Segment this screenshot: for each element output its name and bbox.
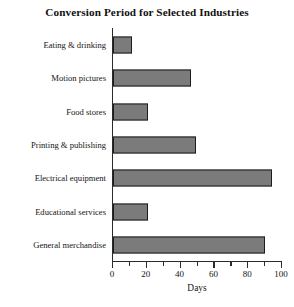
bar-rows: Eating & drinkingMotion picturesFood sto… xyxy=(0,28,294,262)
x-axis-tick-label: 20 xyxy=(141,269,150,279)
x-axis-tick xyxy=(213,262,214,268)
bar xyxy=(113,203,148,220)
bar-chart: Conversion Period for Selected Industrie… xyxy=(0,0,294,307)
x-axis-tick-label: 80 xyxy=(243,269,252,279)
bar-row: Educational services xyxy=(0,195,294,228)
x-axis-tick xyxy=(281,262,282,268)
category-label: Educational services xyxy=(35,207,106,217)
x-axis-tick xyxy=(146,262,147,268)
x-axis-minor-tick xyxy=(264,262,265,266)
bar-row: Food stores xyxy=(0,95,294,128)
bar-row: Eating & drinking xyxy=(0,28,294,61)
x-axis-tick-label: 0 xyxy=(110,269,115,279)
plot-area: Eating & drinkingMotion picturesFood sto… xyxy=(0,0,294,307)
bar-row: Printing & publishing xyxy=(0,128,294,161)
category-label: Electrical equipment xyxy=(35,173,106,183)
bar-row: General merchandise xyxy=(0,229,294,262)
x-axis-tick-label: 100 xyxy=(274,269,288,279)
category-label: Motion pictures xyxy=(51,73,106,83)
category-label: Printing & publishing xyxy=(31,140,106,150)
category-label: Food stores xyxy=(66,107,106,117)
x-axis-minor-tick xyxy=(129,262,130,266)
bar-row: Motion pictures xyxy=(0,61,294,94)
bar xyxy=(113,136,196,153)
x-axis-minor-tick xyxy=(197,262,198,266)
bar-row: Electrical equipment xyxy=(0,162,294,195)
category-label: Eating & drinking xyxy=(43,40,106,50)
bar xyxy=(113,70,191,87)
x-axis-tick-label: 60 xyxy=(209,269,218,279)
x-axis-title: Days xyxy=(112,283,282,293)
x-axis-tick xyxy=(112,262,113,268)
bar xyxy=(113,103,148,120)
x-axis-minor-tick xyxy=(230,262,231,266)
x-axis-tick xyxy=(247,262,248,268)
x-axis-tick xyxy=(180,262,181,268)
bar xyxy=(113,170,272,187)
x-axis-tick-label: 40 xyxy=(175,269,184,279)
category-label: General merchandise xyxy=(33,240,106,250)
bar xyxy=(113,36,132,53)
x-axis-minor-tick xyxy=(163,262,164,266)
bar xyxy=(113,237,265,254)
